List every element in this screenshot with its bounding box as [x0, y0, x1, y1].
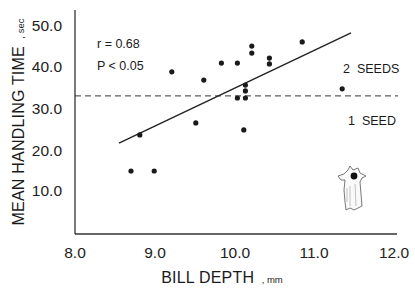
data-point [201, 78, 206, 83]
r-value-annotation: r = 0.68 [97, 37, 140, 51]
data-point [241, 127, 246, 132]
data-point [219, 61, 224, 66]
data-point [267, 61, 272, 66]
x-tick-labels: 8.0 9.0 10.0 11.0 12.0 [64, 244, 409, 261]
data-point [243, 88, 248, 93]
y-axis-title: MEAN HANDLING TIME , sec [10, 18, 27, 225]
data-point [249, 51, 254, 56]
data-point [137, 132, 142, 137]
data-point [300, 39, 305, 44]
x-tick-label: 12.0 [379, 244, 410, 261]
data-point [235, 95, 240, 100]
y-tick-label: 30.0 [32, 100, 63, 117]
data-point [340, 86, 345, 91]
data-point [249, 44, 254, 49]
x-axis-title-text: BILL DEPTH [161, 269, 254, 286]
x-tick-label: 10.0 [220, 244, 251, 261]
two-seeds-label: 2 SEEDS [343, 62, 399, 76]
y-tick-labels: 50.0 40.0 30.0 20.0 10.0 [32, 17, 63, 199]
data-point [169, 69, 174, 74]
y-tick-label: 10.0 [32, 182, 63, 199]
y-axis-title-text: MEAN HANDLING TIME [10, 46, 27, 225]
y-tick-label: 40.0 [32, 58, 63, 75]
data-point [235, 61, 240, 66]
data-points [128, 39, 344, 173]
p-value-annotation: P < 0.05 [97, 59, 144, 73]
data-point [243, 83, 248, 88]
x-tick-label: 8.0 [64, 244, 86, 261]
x-axis-title: BILL DEPTH , mm [161, 269, 283, 286]
y-tick-label: 20.0 [32, 142, 63, 159]
bird-illustration-icon [338, 166, 366, 210]
regression-line [119, 33, 351, 143]
data-point [243, 95, 248, 100]
data-point [128, 168, 133, 173]
scatter-chart: 50.0 40.0 30.0 20.0 10.0 8.0 9.0 10.0 11… [0, 0, 415, 292]
y-tick-label: 50.0 [32, 17, 63, 34]
one-seed-label: 1 SEED [348, 114, 396, 128]
x-tick-label: 9.0 [144, 244, 166, 261]
data-point [267, 56, 272, 61]
data-point [152, 168, 157, 173]
data-point [193, 120, 198, 125]
y-axis-unit: , sec [15, 18, 26, 38]
x-tick-label: 11.0 [299, 244, 328, 261]
x-axis-unit: , mm [262, 274, 283, 285]
